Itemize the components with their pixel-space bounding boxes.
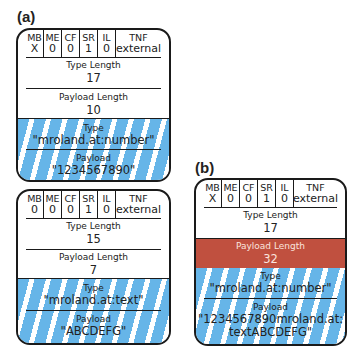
flag-sr: SR1 bbox=[80, 191, 98, 218]
ndef-record-a2: MB0 ME0 CF0 SR1 IL0 TNFexternal Type Len… bbox=[16, 189, 171, 345]
record-header: MBX ME0 CF0 SR1 IL0 TNFexternal bbox=[196, 180, 345, 207]
flag-me: ME0 bbox=[44, 30, 62, 57]
record-header: MB0 ME0 CF0 SR1 IL0 TNFexternal bbox=[18, 191, 169, 218]
type-field: Type"mroland.at:number" bbox=[196, 268, 345, 298]
panel-b-label: (b) bbox=[195, 159, 214, 176]
flag-tnf: TNFexternal bbox=[116, 30, 161, 57]
ndef-record-a1: MBX ME0 CF0 SR1 IL0 TNFexternal Type Len… bbox=[16, 28, 171, 182]
payload-length-field-highlighted: Payload Length32 bbox=[196, 238, 345, 268]
panel-a-label: (a) bbox=[17, 8, 35, 25]
payload-field: Payload"1234567890mroland.at:textABCDEFG… bbox=[196, 299, 345, 342]
payload-field: Payload"1234567890" bbox=[18, 150, 169, 180]
flag-sr: SR1 bbox=[80, 30, 98, 57]
type-length-field: Type Length15 bbox=[18, 218, 169, 249]
flag-mb: MB0 bbox=[26, 191, 44, 218]
payload-field: Payload"ABCDEFG" bbox=[18, 311, 169, 341]
flag-il: IL0 bbox=[98, 30, 116, 57]
flag-mb: MBX bbox=[204, 180, 222, 207]
flag-me: ME0 bbox=[44, 191, 62, 218]
record-header: MBX ME0 CF0 SR1 IL0 TNFexternal bbox=[18, 30, 169, 57]
flag-mb: MBX bbox=[26, 30, 44, 57]
flag-me: ME0 bbox=[222, 180, 240, 207]
flag-tnf: TNFexternal bbox=[294, 180, 337, 207]
type-field: Type"mroland.at:number" bbox=[18, 120, 169, 149]
type-length-field: Type Length17 bbox=[196, 207, 345, 238]
type-field: Type"mroland.at:text" bbox=[18, 280, 169, 310]
ndef-record-b1: MBX ME0 CF0 SR1 IL0 TNFexternal Type Len… bbox=[194, 178, 347, 346]
payload-length-field: Payload Length10 bbox=[18, 89, 169, 119]
flag-cf: CF0 bbox=[62, 191, 80, 218]
flag-cf: CF0 bbox=[240, 180, 258, 207]
payload-length-field: Payload Length7 bbox=[18, 250, 169, 279]
flag-cf: CF0 bbox=[62, 30, 80, 57]
flag-il: IL0 bbox=[98, 191, 116, 218]
flag-sr: SR1 bbox=[258, 180, 276, 207]
flag-tnf: TNFexternal bbox=[116, 191, 161, 218]
flag-il: IL0 bbox=[276, 180, 294, 207]
type-length-field: Type Length17 bbox=[18, 57, 169, 88]
